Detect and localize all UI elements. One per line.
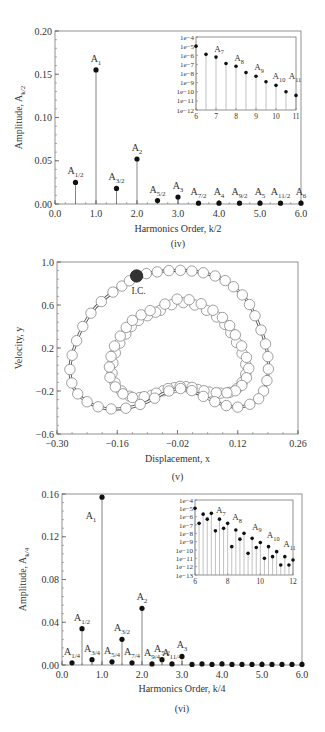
inset-x-tick-label: 6 [194,112,198,121]
inset-marker [264,80,268,84]
stem-marker [298,201,303,206]
inset-harmonic-label: A9 [254,62,264,74]
inset-harmonic-label: A10 [273,71,286,83]
x-tick-label: 0.12 [229,438,247,449]
inset-y-tick-label: 1e−4 [180,34,195,42]
inset-marker [234,528,238,532]
inset-y-tick-label: 1e−9 [179,538,194,546]
x-axis-label: Harmonics Order, k/4 [138,683,225,694]
y-tick-label: 1.0 [42,257,55,268]
stem-marker [279,662,284,667]
inset-y-tick-label: 1e−8 [180,70,195,78]
inset-y-tick-label: 1e−7 [179,522,194,530]
y-axis-label: Amplitude, Ak/2 [13,85,27,149]
figure-caption: (vi) [175,703,189,715]
outer-orbit-marker [250,311,260,321]
inset-y-tick-label: 1e−11 [176,555,194,563]
inner-orbit-marker [110,382,120,392]
inset-y-tick-label: 1e−6 [180,52,195,60]
harmonic-label: A5/2 [149,184,166,198]
stem-marker [209,662,214,667]
inset-harmonic-label: A8 [234,53,244,65]
stem-marker [155,198,160,203]
inner-orbit-marker [172,294,182,304]
x-tick-label: 4.0 [213,208,226,219]
stem-marker [289,662,294,667]
inset-x-tick-label: 11 [292,112,299,121]
inset-x-tick-label: 9 [254,112,258,121]
stem-marker [219,661,224,666]
x-tick-label: 0.0 [56,669,69,680]
inner-orbit-marker [160,299,170,309]
inset-marker [254,74,258,78]
inset-marker [193,507,197,511]
initial-condition-marker [130,270,142,282]
inset-marker [234,64,238,68]
x-tick-label: 2.0 [131,208,144,219]
harmonic-label: A2 [137,591,148,605]
stem-marker [179,654,184,659]
inner-orbit-marker [184,295,194,305]
inset-marker [194,44,198,48]
inset-marker [205,517,209,521]
inset-marker [274,84,278,88]
outer-orbit-marker [106,404,116,414]
x-tick-label: −0.02 [166,438,189,449]
chart-iv: 0.01.02.03.04.05.06.00.000.050.100.150.2… [13,26,307,251]
stem-marker [237,201,242,206]
x-tick-label: 0.0 [49,208,62,219]
x-tick-label: 1.0 [90,208,103,219]
y-tick-label: 0.6 [42,300,55,311]
inset-x-tick-label: 6 [193,577,197,586]
inner-orbit-marker [196,299,206,309]
y-axis-label: Amplitude, Ak/4 [17,547,31,611]
outer-orbit-marker [65,364,75,374]
x-tick-label: 2.0 [136,669,149,680]
stem-marker [196,201,201,206]
inset-marker [218,517,222,521]
inset-marker [242,532,246,536]
outer-orbit-marker [260,339,270,349]
stem-marker [278,201,283,206]
outer-orbit-marker [96,296,106,306]
harmonic-label: A7/2 [190,186,207,200]
inset-marker [226,522,230,526]
inset-y-tick-label: 1e−13 [175,572,193,580]
outer-orbit-marker [82,397,92,407]
inset-marker [214,55,218,59]
harmonic-label: A5 [255,186,266,200]
outer-orbit-marker [263,351,273,361]
inset-marker [279,563,283,567]
outer-orbit-marker [135,399,145,409]
inset-marker [254,546,258,550]
stem-marker [299,662,304,667]
inset-x-tick-label: 10 [272,112,280,121]
outer-orbit-marker [245,399,255,409]
outer-orbit-marker [244,299,254,309]
y-tick-label: −0.2 [36,386,54,397]
harmonic-label: A3 [173,180,184,194]
harmonic-label: A4 [214,186,225,200]
outer-orbit-marker [187,266,197,276]
inset-marker [267,545,271,549]
ic-annotation: I.C. [131,286,145,296]
inset-harmonic-label: A8 [232,512,242,524]
inset-chart: 1e−41e−51e−61e−71e−81e−91e−101e−111e−126… [176,34,301,122]
outer-orbit-marker [237,290,247,300]
stem-marker [73,180,78,185]
inner-orbit-marker [109,341,119,351]
inner-orbit-marker [244,363,254,373]
stem-marker [69,660,74,665]
inset-x-tick-label: 10 [257,577,265,586]
stem-marker [114,186,119,191]
inset-marker [214,529,218,533]
inset-marker [230,545,234,549]
figure-canvas: 0.01.02.03.04.05.06.00.000.050.100.150.2… [0,0,325,732]
stem-marker [189,662,194,667]
outer-orbit-marker [67,350,77,360]
y-tick-label: −0.6 [36,429,54,440]
inset-x-tick-label: 7 [214,112,218,121]
outer-orbit-marker [175,383,185,393]
inset-y-tick-label: 1e−9 [180,79,195,87]
inner-orbit-marker [217,312,227,322]
